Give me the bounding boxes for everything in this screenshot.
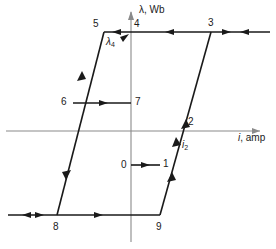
hysteresis-plot-svg: [0, 0, 276, 249]
hysteresis-loop-figure: λ, Wb i, amp λ4 i2 0 1 2 3 4 5 6 7 8 9: [0, 0, 276, 249]
point-label-1: 1: [163, 159, 169, 169]
point-label-0: 0: [121, 160, 127, 170]
arrowhead-lambda4-pointer: [120, 34, 129, 42]
point-label-6: 6: [61, 97, 67, 107]
arrowhead-left-branch-upper: [77, 71, 86, 81]
point-label-5: 5: [93, 19, 99, 29]
axis-group: [6, 11, 260, 242]
point-label-7: 7: [135, 97, 141, 107]
point-label-4: 4: [134, 19, 140, 29]
i-2-subscript: 2: [184, 144, 188, 151]
horizontal-axis-label-unit: , amp: [240, 132, 265, 143]
point-label-9: 9: [156, 222, 162, 232]
loop-curve-group: [8, 32, 270, 215]
vertical-axis-label: λ, Wb: [139, 5, 165, 15]
segment-5-to-8: [57, 32, 104, 215]
arrowhead-left-branch-lower: [62, 170, 71, 180]
lambda-4-subscript: 4: [111, 41, 115, 48]
arrowhead-top-tail-right: [222, 29, 231, 35]
lambda-4-annotation: λ4: [106, 37, 115, 48]
arrowhead-top-4-to-5: [112, 29, 121, 35]
i-2-annotation: i2: [182, 140, 188, 151]
arrowhead-6-to-7: [99, 100, 108, 106]
horizontal-axis-label: i, amp: [238, 133, 265, 143]
arrowhead-bottom-tail-right: [35, 212, 44, 218]
arrowhead-bottom-8-to-9: [94, 212, 103, 218]
direction-arrowheads-group: [22, 29, 249, 218]
arrowhead-0-to-1: [141, 162, 150, 168]
point-label-8: 8: [53, 222, 59, 232]
arrowhead-bottom-tail-left: [22, 212, 31, 218]
arrowhead-top-3-to-4: [165, 29, 174, 35]
point-label-3: 3: [208, 18, 214, 28]
arrowhead-right-branch-lower: [167, 172, 176, 182]
arrowhead-top-tail-left: [240, 29, 249, 35]
point-label-2: 2: [188, 117, 194, 127]
